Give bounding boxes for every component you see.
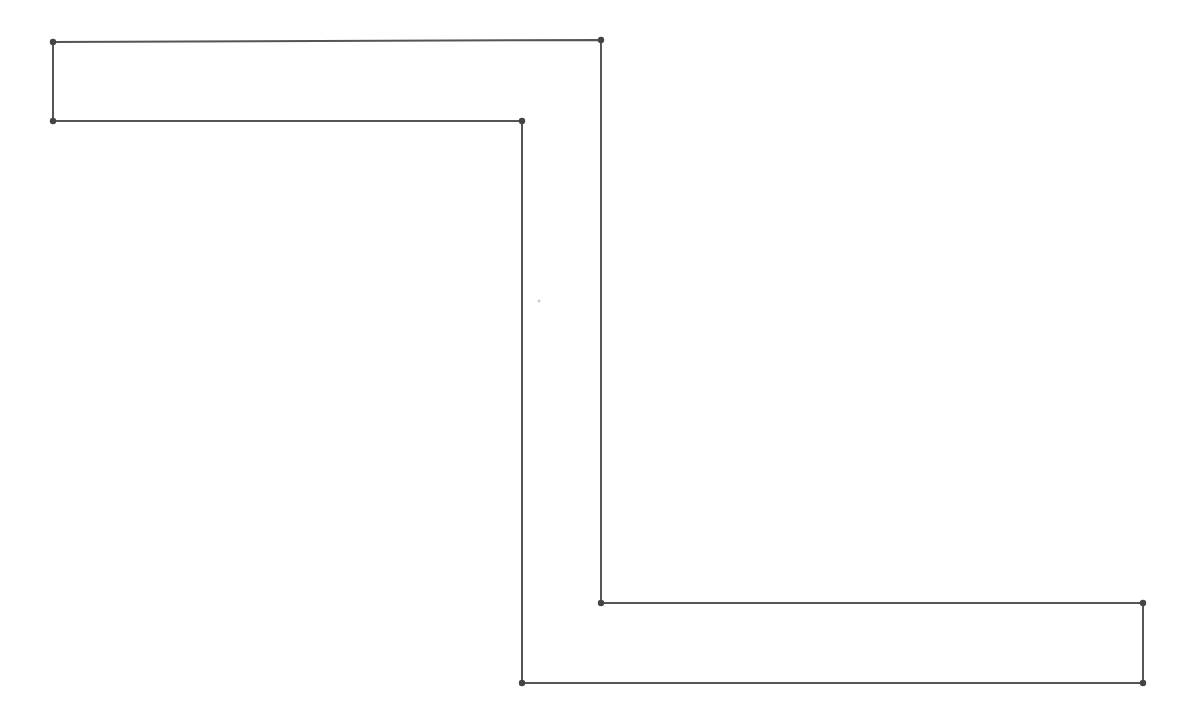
z-shaped-polygon	[53, 40, 1143, 683]
polygon-vertices	[50, 37, 1146, 686]
vertex-point	[519, 118, 525, 124]
vertex-point	[1140, 680, 1146, 686]
vertex-point	[519, 680, 525, 686]
stray-mark	[538, 300, 541, 303]
vertex-point	[598, 37, 604, 43]
vertex-point	[598, 600, 604, 606]
vertex-point	[1140, 600, 1146, 606]
vertex-point	[50, 39, 56, 45]
vertex-point	[50, 118, 56, 124]
diagram-canvas	[0, 0, 1191, 720]
